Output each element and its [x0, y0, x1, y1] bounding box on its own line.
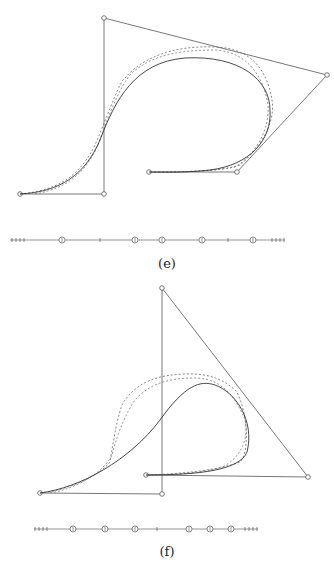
control-point-icon [160, 492, 165, 497]
caption-f: (f) [0, 544, 334, 559]
control-point-icon [102, 16, 107, 21]
control-polygon-f [40, 288, 308, 494]
approx-curve-dashed-1 [40, 374, 246, 493]
control-polygon-e [20, 18, 327, 194]
control-point-icon [160, 286, 165, 291]
control-point-icon [102, 192, 107, 197]
control-point-icon [306, 475, 311, 480]
spline-figure [0, 0, 334, 567]
spline-curve-solid [20, 58, 270, 194]
caption-e: (e) [0, 256, 334, 271]
control-point-icon [235, 170, 240, 175]
control-point-icon [325, 73, 330, 78]
